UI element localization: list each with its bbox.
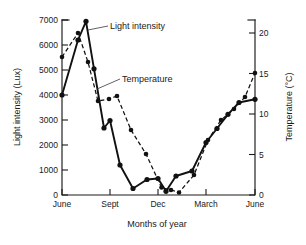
y-tick-label: 4000 <box>39 90 58 100</box>
x-tick-label: June <box>246 199 265 209</box>
y2-tick-label: 5 <box>259 150 264 160</box>
y-tick-label: 6000 <box>39 40 58 50</box>
y2-tick-label: 15 <box>259 69 269 79</box>
y-axis-right-ticks <box>249 33 255 195</box>
y2-tick-label: 10 <box>259 109 269 119</box>
chart-figure: 0 1000 2000 3000 4000 5000 6000 7000 0 5… <box>0 0 306 245</box>
x-tick-label: Dec <box>150 199 166 209</box>
y-axis-left-ticks <box>62 20 68 195</box>
y-axis-title: Light intensity (Lux) <box>12 68 22 146</box>
light-intensity-line <box>62 21 255 191</box>
y2-axis-title: Temperature (°C) <box>284 72 294 141</box>
y-tick-label: 3000 <box>39 115 58 125</box>
x-tick-label: June <box>53 199 72 209</box>
x-tick-label: Sept <box>101 199 119 209</box>
y-tick-label: 5000 <box>39 65 58 75</box>
y-tick-label: 2000 <box>39 140 58 150</box>
x-tick-label: March <box>194 199 218 209</box>
x-axis-title: Months of year <box>127 219 187 229</box>
annotation-light-intensity: Light intensity <box>88 21 166 31</box>
y-tick-label: 7000 <box>39 15 58 25</box>
x-axis-ticks <box>62 189 255 195</box>
series-light-intensity <box>59 19 257 194</box>
annotation-light-intensity-label: Light intensity <box>110 21 166 31</box>
y2-tick-label: 20 <box>259 28 269 38</box>
y-axis-left-tick-labels: 0 1000 2000 3000 4000 5000 6000 7000 <box>39 15 58 200</box>
annotation-temperature-label: Temperature <box>122 74 173 84</box>
y-tick-label: 1000 <box>39 165 58 175</box>
x-axis-tick-labels: June Sept Dec March June <box>53 199 265 209</box>
y-axis-right-tick-labels: 0 5 10 15 20 <box>259 28 269 200</box>
line-chart: 0 1000 2000 3000 4000 5000 6000 7000 0 5… <box>0 0 306 245</box>
annotation-temperature: Temperature <box>97 74 173 89</box>
